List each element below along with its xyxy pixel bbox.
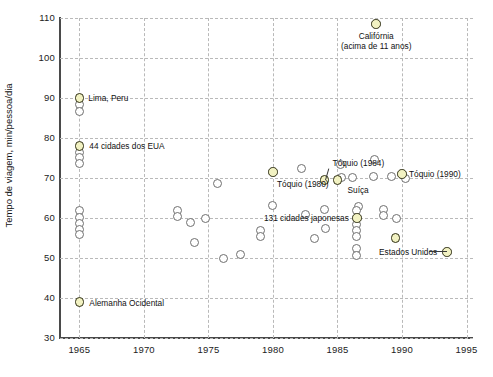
annotation-label: Lima, Peru [88, 93, 128, 103]
annotation-label: (acima de 11 anos) [341, 41, 411, 51]
data-point [256, 232, 265, 241]
edge-line-4 [479, 48, 493, 60]
gridline-vertical [208, 18, 209, 338]
plot-area: Lima, Peru44 cidades dos EUAAlemanha Oci… [60, 18, 473, 338]
data-point [310, 234, 319, 243]
gridline-horizontal [60, 258, 473, 259]
data-point-highlighted [397, 169, 407, 179]
annotation-label: Tóquio (1990) [409, 169, 461, 179]
data-point-highlighted [75, 141, 85, 151]
x-tick-label: 1965 [57, 344, 101, 355]
data-point-highlighted [75, 93, 85, 103]
data-point-highlighted [442, 247, 452, 257]
edge-line-3 [479, 36, 493, 48]
y-tick-label: 90 [21, 92, 55, 103]
x-tick-label: 1995 [445, 344, 489, 355]
data-point-highlighted [268, 167, 278, 177]
y-axis-title: Tempo de viagem, min/pessoa/dia [3, 6, 14, 306]
data-point [173, 212, 182, 221]
data-point-highlighted [75, 297, 85, 307]
x-tick-label: 1990 [380, 344, 424, 355]
gridline-horizontal [60, 58, 473, 59]
data-point [348, 173, 357, 182]
data-point [387, 172, 396, 181]
gridline-vertical [79, 18, 80, 338]
data-point-highlighted [371, 19, 381, 29]
annotation-leader-line [429, 251, 447, 252]
data-point [75, 107, 84, 116]
gridline-vertical [144, 18, 145, 338]
y-tick-label: 50 [21, 252, 55, 263]
annotation-label: 131 cidades japonesas [264, 213, 349, 223]
gridline-vertical [467, 18, 468, 338]
y-tick-label: 30 [21, 332, 55, 343]
y-tick-label: 70 [21, 172, 55, 183]
gridline-horizontal [60, 338, 473, 339]
annotation-label: Alemanha Ocidental [89, 298, 164, 308]
annotation-label: Estados Unidos [379, 247, 437, 257]
data-point [369, 172, 378, 181]
data-point [219, 254, 228, 263]
x-tick-label: 1985 [315, 344, 359, 355]
x-tick-label: 1970 [122, 344, 166, 355]
x-tick-label: 1980 [251, 344, 295, 355]
data-point-highlighted [391, 233, 401, 243]
annotation-label: Tóquio (1980) [277, 179, 329, 189]
y-tick-label: 40 [21, 292, 55, 303]
data-point [190, 238, 199, 247]
annotation-label: Tóquio (1984) [333, 158, 385, 168]
data-point [352, 232, 361, 241]
annotation-label: 44 cidades dos EUA [89, 141, 164, 151]
gridline-vertical [273, 18, 274, 338]
chart-canvas: Tempo de viagem, min/pessoa/dia Lima, Pe… [0, 0, 493, 377]
y-tick-label: 60 [21, 212, 55, 223]
gridline-horizontal [60, 138, 473, 139]
y-tick-label: 110 [21, 12, 55, 23]
annotation-label: Califórnia [359, 31, 394, 41]
data-point [268, 201, 277, 210]
data-point [297, 164, 306, 173]
x-tick-label: 1975 [186, 344, 230, 355]
data-point-highlighted [352, 213, 362, 223]
data-point [321, 224, 330, 233]
edge-line-2 [479, 24, 493, 36]
data-point [186, 218, 195, 227]
data-point [392, 214, 401, 223]
edge-line-1 [479, 12, 493, 24]
data-point [236, 250, 245, 259]
y-tick-label: 80 [21, 132, 55, 143]
data-point [75, 159, 84, 168]
y-tick-label: 100 [21, 52, 55, 63]
data-point [213, 179, 222, 188]
data-point-highlighted [333, 175, 343, 185]
cropped-edge-text [479, 12, 493, 60]
data-point [75, 230, 84, 239]
annotation-label: Suíça [347, 185, 368, 195]
gridline-horizontal [60, 18, 473, 19]
